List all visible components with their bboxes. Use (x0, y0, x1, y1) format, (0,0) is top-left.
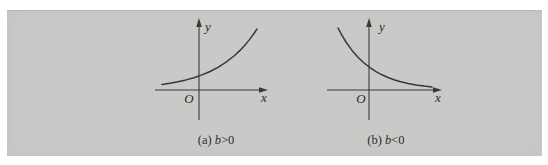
plot-a: y x O (a) b>0 (155, 18, 268, 147)
plot-b-curve (338, 28, 432, 87)
plot-b-caption: (b) b<0 (367, 133, 404, 147)
plot-b: y x O (b) b<0 (327, 18, 442, 147)
plot-b-origin-label: O (356, 91, 366, 106)
plot-a-x-axis-label: x (260, 90, 267, 105)
plot-a-y-axis-label: y (203, 19, 211, 34)
plot-b-caption-index: (b) (367, 133, 385, 147)
plot-b-x-axis-label: x (434, 90, 441, 105)
plot-a-y-axis-arrowhead-icon (196, 18, 202, 27)
plot-b-y-axis-label: y (377, 19, 385, 34)
plot-b-y-axis-arrowhead-icon (366, 18, 372, 27)
plot-a-curve (162, 29, 257, 85)
page: y x O (a) b>0 y x O (b) b<0 (0, 0, 548, 165)
plot-b-caption-relation: <0 (391, 133, 404, 147)
plot-a-origin-label: O (184, 91, 194, 106)
plot-a-caption: (a) b>0 (198, 133, 235, 147)
figure-canvas: y x O (a) b>0 y x O (b) b<0 (0, 0, 548, 165)
plot-a-caption-index: (a) (198, 133, 215, 147)
plot-a-caption-relation: >0 (221, 133, 234, 147)
